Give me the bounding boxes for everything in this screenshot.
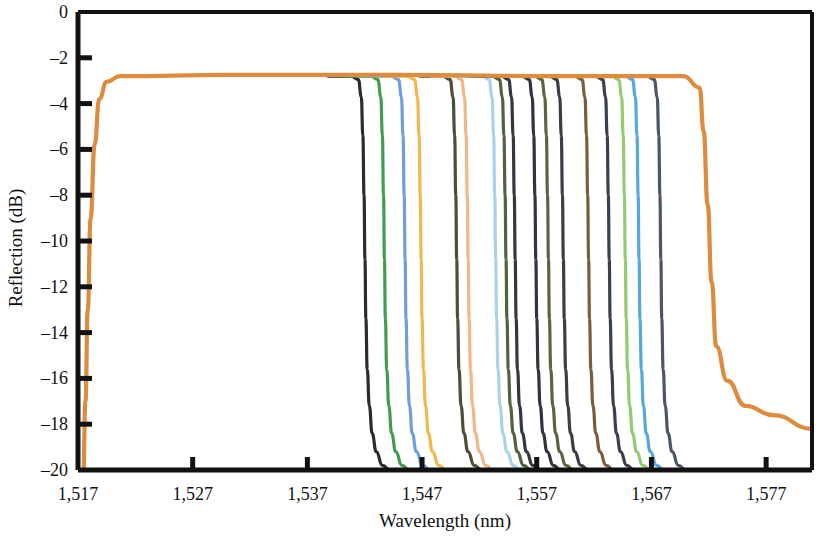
x-tick-label: 1,537 — [287, 484, 328, 504]
y-axis-tick-labels: 0–2–4–6–8–10–12–14–16–18–20 — [40, 2, 68, 480]
y-tick-label: –8 — [49, 185, 68, 205]
y-tick-label: –18 — [40, 414, 68, 434]
x-axis-title: Wavelength (nm) — [379, 510, 511, 532]
y-tick-label: –14 — [40, 323, 68, 343]
reflection-spectrum-figure: 0–2–4–6–8–10–12–14–16–18–20 1,5171,5271,… — [0, 0, 818, 540]
x-tick-label: 1,547 — [402, 484, 443, 504]
y-axis-title: Reflection (dB) — [5, 189, 27, 308]
x-tick-label: 1,577 — [746, 484, 787, 504]
y-tick-label: –10 — [40, 231, 68, 251]
x-axis-tick-labels: 1,5171,5271,5371,5471,5571,5671,577 — [58, 484, 787, 504]
x-tick-label: 1,517 — [58, 484, 99, 504]
y-tick-label: –2 — [49, 48, 68, 68]
x-tick-label: 1,567 — [631, 484, 672, 504]
y-tick-label: –6 — [49, 139, 68, 159]
x-tick-label: 1,557 — [517, 484, 558, 504]
y-tick-label: –16 — [40, 368, 68, 388]
y-tick-label: –12 — [40, 277, 68, 297]
y-tick-label: 0 — [59, 2, 68, 22]
x-tick-label: 1,527 — [172, 484, 213, 504]
chart-canvas: 0–2–4–6–8–10–12–14–16–18–20 1,5171,5271,… — [0, 0, 818, 540]
y-tick-label: –20 — [40, 460, 68, 480]
y-tick-label: –4 — [49, 94, 68, 114]
plot-background — [78, 12, 812, 470]
